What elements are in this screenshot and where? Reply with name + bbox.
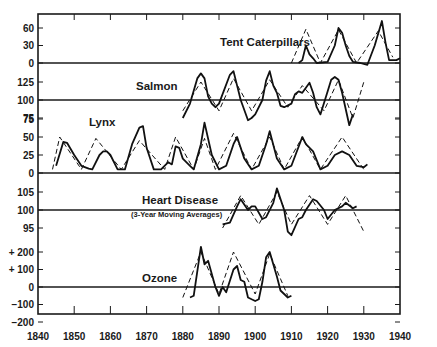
y-tick-label: −100 bbox=[11, 299, 34, 310]
y-tick-label: 95 bbox=[23, 223, 35, 234]
multi-panel-cycle-chart: 0306075100125025507595100105−200−1000+ 1… bbox=[0, 0, 437, 347]
y-tick-label: 100 bbox=[17, 95, 34, 106]
x-tick-label: 1860 bbox=[99, 331, 122, 342]
y-tick-label: 75 bbox=[23, 114, 35, 125]
heart-disease-dashed-line bbox=[223, 192, 364, 232]
y-tick-label: + 200 bbox=[9, 247, 35, 258]
y-tick-label: 30 bbox=[23, 40, 35, 51]
x-tick-label: 1870 bbox=[135, 331, 158, 342]
panel-label-salmon: Salmon bbox=[136, 80, 178, 92]
x-tick-label: 1840 bbox=[27, 331, 50, 342]
heart-disease-solid-line bbox=[223, 188, 357, 235]
panel-label-lynx: Lynx bbox=[89, 116, 116, 128]
x-tick-label: 1910 bbox=[280, 331, 303, 342]
y-tick-label: 100 bbox=[17, 205, 34, 216]
x-tick-label: 1890 bbox=[208, 331, 231, 342]
panel-sublabel: (3-Year Moving Averages) bbox=[131, 210, 223, 219]
x-tick-label: 1930 bbox=[353, 331, 376, 342]
salmon-solid-line bbox=[183, 71, 353, 125]
y-tick-label: 60 bbox=[23, 23, 35, 34]
x-tick-label: 1920 bbox=[316, 331, 339, 342]
plot-border bbox=[38, 14, 400, 314]
panel-baselines bbox=[38, 63, 400, 287]
ozone-dashed-line bbox=[183, 252, 288, 298]
x-tick-label: 1940 bbox=[389, 331, 412, 342]
plot-frame bbox=[38, 14, 400, 314]
y-tick-label: 0 bbox=[28, 168, 34, 179]
x-tick-label: 1880 bbox=[172, 331, 195, 342]
ozone-solid-line bbox=[190, 247, 291, 301]
y-tick-label: 0 bbox=[28, 58, 34, 69]
y-axis-ticks: 0306075100125025507595100105−200−1000+ 1… bbox=[9, 23, 400, 328]
y-tick-label: 25 bbox=[23, 150, 35, 161]
y-tick-label: 50 bbox=[23, 132, 35, 143]
y-tick-label: 105 bbox=[17, 187, 34, 198]
lynx-solid-line bbox=[56, 123, 367, 170]
x-tick-label: 1850 bbox=[63, 331, 86, 342]
y-tick-label: −200 bbox=[11, 317, 34, 328]
y-tick-label: 0 bbox=[28, 282, 34, 293]
y-tick-label: + 100 bbox=[9, 264, 35, 275]
x-tick-label: 1900 bbox=[244, 331, 267, 342]
y-tick-label: 125 bbox=[17, 77, 34, 88]
panel-label-heart-disease: Heart Disease bbox=[142, 194, 218, 206]
panel-label-ozone: Ozone bbox=[142, 272, 177, 284]
panel-label-tent-caterpillars: Tent Caterpillars bbox=[220, 36, 310, 48]
